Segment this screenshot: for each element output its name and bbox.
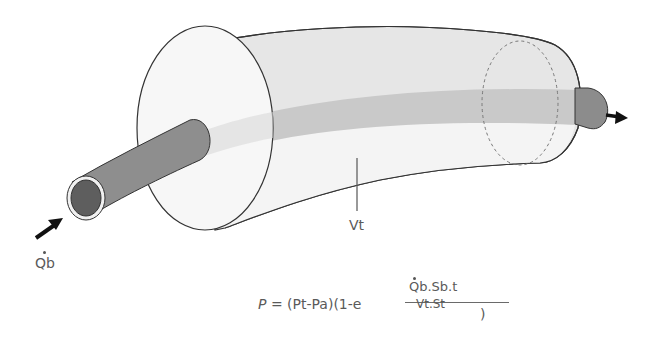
outflow-arrow-icon	[606, 111, 628, 124]
inflow-arrow-icon	[36, 218, 63, 238]
volume-label: Vt	[349, 217, 364, 233]
exponent-numerator: Qb.Sb.t	[409, 279, 457, 294]
formula: P = (Pt-Pa)(1-e	[258, 296, 361, 312]
inflow-label: Qb	[35, 255, 55, 271]
formula-equals: =	[271, 296, 283, 312]
formula-rhs: (Pt-Pa)(1-e	[287, 296, 361, 312]
formula-lhs: P	[258, 296, 266, 312]
outlet-pipe	[575, 88, 608, 129]
inflow-dot	[43, 251, 46, 254]
formula-close: )	[480, 306, 485, 322]
exponent-denominator: Vt.St	[416, 297, 445, 311]
